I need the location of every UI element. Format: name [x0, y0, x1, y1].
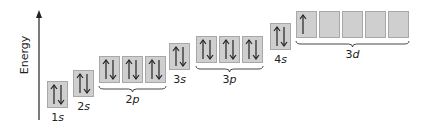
orbital-energy-diagram: Energy 1s2s2p3s3p4s3d	[0, 0, 432, 129]
spin-up-arrow-icon	[126, 60, 132, 79]
spin-down-arrow-icon	[156, 60, 162, 79]
spin-down-arrow-icon	[281, 27, 287, 46]
spin-up-arrow-icon	[246, 40, 252, 59]
spin-up-arrow-icon	[300, 15, 306, 34]
spin-up-arrow-icon	[223, 40, 229, 59]
spin-up-arrow-icon	[173, 47, 179, 66]
brace-3d	[296, 41, 409, 47]
spin-down-arrow-icon	[253, 40, 259, 59]
spin-down-arrow-icon	[133, 60, 139, 79]
spin-up-arrow-icon	[274, 27, 280, 46]
spin-up-arrow-icon	[149, 60, 155, 79]
spin-down-arrow-icon	[110, 60, 116, 79]
orbital-overlay	[0, 0, 432, 129]
spin-down-arrow-icon	[84, 74, 90, 93]
spin-up-arrow-icon	[103, 60, 109, 79]
brace-2p	[99, 86, 166, 92]
spin-up-arrow-icon	[51, 85, 57, 104]
brace-3p	[196, 66, 263, 72]
spin-down-arrow-icon	[58, 85, 64, 104]
spin-down-arrow-icon	[207, 40, 213, 59]
spin-down-arrow-icon	[230, 40, 236, 59]
spin-up-arrow-icon	[200, 40, 206, 59]
spin-down-arrow-icon	[180, 47, 186, 66]
spin-up-arrow-icon	[77, 74, 83, 93]
